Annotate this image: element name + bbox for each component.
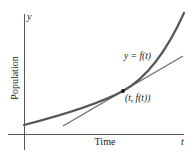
y-axis-label: y xyxy=(26,11,32,22)
point-label: (t, f(t)) xyxy=(125,93,150,104)
curve-label: y = f(t) xyxy=(123,51,151,62)
population-growth-diagram: y t Time Population y = f(t) (t, f(t)) xyxy=(0,0,195,159)
x-axis-label: t xyxy=(181,136,184,147)
x-axis-title: Time xyxy=(95,136,116,147)
y-axis-title: Population xyxy=(9,56,20,99)
